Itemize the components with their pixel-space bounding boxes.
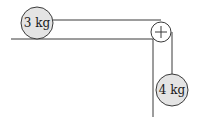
- mass-3kg: 3 kg: [21, 7, 53, 39]
- pulley: [151, 22, 171, 42]
- mass-3kg-label: 3 kg: [24, 16, 51, 30]
- mass-4kg-label: 4 kg: [159, 83, 186, 97]
- pulley-diagram: 3 kg 4 kg: [0, 0, 198, 123]
- mass-4kg: 4 kg: [156, 74, 188, 106]
